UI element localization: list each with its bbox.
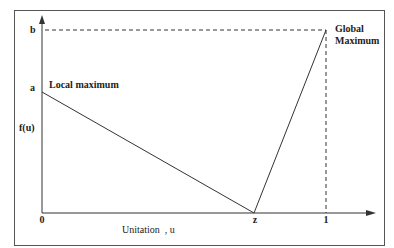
- x-axis-label: Unitation , u: [122, 224, 175, 235]
- y-axis-label: f(u): [19, 122, 35, 134]
- y-tick-a: a: [30, 82, 35, 93]
- fitness-diagram: b a f(u) 0 z 1 Unitation , u Local maxim…: [0, 0, 394, 248]
- global-maximum-label-line2: Maximum: [335, 35, 380, 46]
- x-axis-arrow-icon: [366, 210, 376, 216]
- x-tick-1: 1: [324, 214, 329, 225]
- y-axis-arrow-icon: [39, 15, 45, 24]
- increasing-segment: [254, 30, 326, 213]
- global-maximum-label-line1: Global: [335, 23, 364, 34]
- y-tick-b: b: [30, 24, 36, 35]
- diagram-frame: [15, 11, 385, 246]
- x-tick-0: 0: [40, 214, 45, 225]
- local-maximum-label: Local maximum: [49, 79, 119, 90]
- x-tick-z: z: [253, 214, 258, 225]
- decreasing-segment: [42, 92, 254, 213]
